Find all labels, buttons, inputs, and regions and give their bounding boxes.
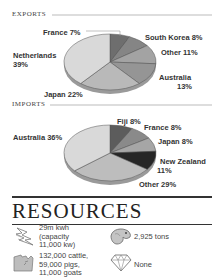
imports-heading-rule bbox=[50, 104, 212, 106]
exports-label-netherlands-pct: 39% bbox=[13, 60, 28, 69]
exports-label-netherlands: Netherlands bbox=[13, 51, 56, 60]
resource-fish: 2,925 tons bbox=[134, 233, 169, 242]
resource-electricity: 29m kwh (capacity 11,000 kw) bbox=[39, 224, 75, 250]
imports-label-australia: Australia 36% bbox=[13, 133, 62, 142]
fish-icon bbox=[109, 226, 133, 246]
exports-label-australia: Australia bbox=[159, 73, 191, 82]
imports-label-japan: Japan 8% bbox=[158, 137, 193, 146]
imports-pie bbox=[64, 125, 156, 185]
imports-label-new-zealand: New Zealand bbox=[160, 157, 206, 166]
resource-gems: None bbox=[134, 261, 152, 270]
exports-label-australia-pct: 13% bbox=[177, 82, 192, 91]
exports-pie bbox=[64, 31, 156, 94]
exports-label-japan: Japan 22% bbox=[44, 90, 83, 99]
exports-label-france: France 7% bbox=[43, 28, 81, 37]
resource-livestock: 132,000 cattle, 59,000 pigs, 11,000 goat… bbox=[39, 252, 88, 278]
exports-label-other: Other 11% bbox=[161, 48, 198, 57]
imports-label-france: France 8% bbox=[144, 123, 182, 132]
resources-top-rule bbox=[12, 196, 212, 198]
diamond-icon bbox=[110, 254, 132, 272]
imports-heading: IMPORTS bbox=[12, 100, 45, 108]
resources-heading: RESOURCES bbox=[12, 199, 142, 224]
livestock-icon bbox=[13, 253, 35, 273]
imports-label-new-zealand-pct: 11% bbox=[157, 166, 172, 175]
imports-label-other: Other 29% bbox=[139, 180, 176, 189]
exports-label-south-korea: South Korea 8% bbox=[145, 33, 203, 42]
imports-label-fiji: Fiji 8% bbox=[117, 117, 141, 126]
lightning-icon bbox=[13, 225, 35, 247]
